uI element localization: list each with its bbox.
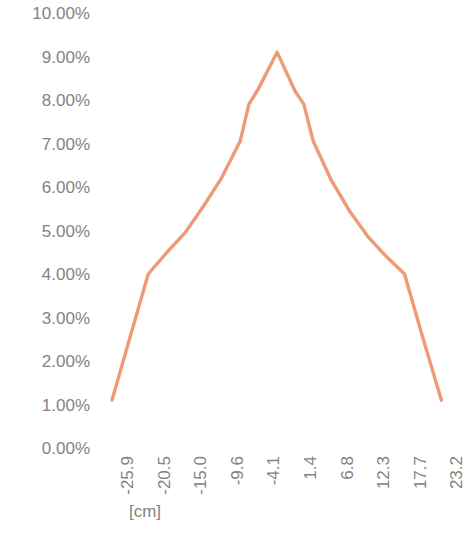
x-tick-label: -15.0 xyxy=(192,456,209,495)
y-tick-label: 6.00% xyxy=(0,179,90,196)
x-tick-label: 6.8 xyxy=(339,456,356,480)
x-tick-label: -20.5 xyxy=(156,456,173,495)
y-tick-label: 5.00% xyxy=(0,223,90,240)
y-tick-label: 1.00% xyxy=(0,397,90,414)
x-tick-label: 17.7 xyxy=(412,456,429,489)
plot-area xyxy=(100,0,434,460)
y-axis: 10.00%9.00%8.00%7.00%6.00%5.00%4.00%3.00… xyxy=(0,0,100,460)
y-tick-label: 0.00% xyxy=(0,440,90,457)
series-line-distribution xyxy=(112,52,441,400)
x-tick-label: 23.2 xyxy=(448,456,465,489)
x-tick-label: 12.3 xyxy=(375,456,392,489)
y-tick-label: 8.00% xyxy=(0,92,90,109)
x-tick-label: -4.1 xyxy=(265,456,282,485)
y-tick-label: 4.00% xyxy=(0,266,90,283)
y-tick-label: 2.00% xyxy=(0,353,90,370)
x-axis-title: [cm] xyxy=(0,503,290,520)
series-line-svg xyxy=(100,0,434,460)
x-tick-label: -25.9 xyxy=(119,456,136,495)
y-tick-label: 9.00% xyxy=(0,49,90,66)
x-tick-label: -9.6 xyxy=(229,456,246,485)
y-tick-label: 3.00% xyxy=(0,310,90,327)
y-tick-label: 10.00% xyxy=(0,5,90,22)
y-tick-label: 7.00% xyxy=(0,136,90,153)
x-tick-label: 1.4 xyxy=(302,456,319,480)
